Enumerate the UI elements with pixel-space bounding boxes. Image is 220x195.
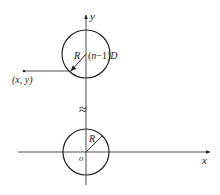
axis-break-symbol: ≈ [79, 102, 87, 117]
y-axis-label: y [89, 10, 95, 22]
point-label: (x, y) [12, 74, 33, 86]
upper-center-label: (n−1)D [88, 50, 118, 62]
point-marker [23, 70, 26, 73]
lower-radius-label: R [88, 133, 95, 144]
origin-label: o [79, 153, 84, 163]
diagram-canvas: y x ≈ R (n−1)D (x, y) R o [0, 0, 220, 195]
upper-radius-label: R [73, 50, 80, 61]
x-axis-label: x [201, 154, 207, 166]
